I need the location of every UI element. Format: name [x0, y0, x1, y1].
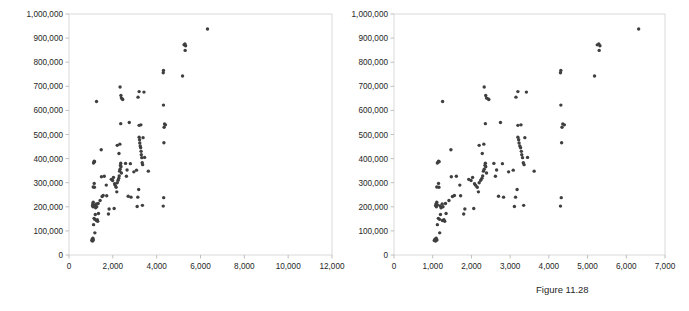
- data-point: [137, 90, 140, 93]
- plot-frame: [394, 14, 665, 255]
- y-tick-label: 1,000,000: [27, 10, 64, 19]
- data-point: [441, 100, 444, 103]
- y-tick-label: 200,000: [33, 203, 63, 212]
- data-point: [521, 156, 524, 159]
- y-tick-label: 100,000: [358, 227, 388, 236]
- x-tick-label: 12,000: [319, 262, 344, 271]
- data-point: [458, 183, 461, 186]
- data-point: [117, 174, 120, 177]
- data-point: [162, 196, 165, 199]
- data-point: [487, 98, 490, 101]
- data-point: [114, 186, 117, 189]
- figure-caption: Figure 11.28: [536, 284, 589, 295]
- scatter-chart-left: 0100,000200,000300,000400,000500,000600,…: [0, 0, 345, 280]
- data-point: [497, 195, 500, 198]
- x-tick-label: 10,000: [276, 262, 301, 271]
- data-point: [162, 103, 165, 106]
- data-point: [481, 152, 484, 155]
- data-point: [115, 190, 118, 193]
- data-point: [438, 231, 441, 234]
- data-point: [92, 238, 95, 241]
- y-tick-label: 700,000: [33, 82, 63, 91]
- data-point: [463, 207, 466, 210]
- plot-frame: [69, 14, 332, 255]
- data-point-group: [90, 27, 209, 242]
- data-point: [559, 204, 562, 207]
- data-point: [117, 152, 120, 155]
- data-point: [129, 195, 132, 198]
- data-point: [437, 182, 440, 185]
- data-point: [525, 90, 528, 93]
- y-tick-label: 900,000: [358, 34, 388, 43]
- x-tick-label: 2,000: [103, 262, 124, 271]
- data-point: [453, 194, 456, 197]
- data-point: [494, 174, 497, 177]
- data-point: [96, 202, 99, 205]
- data-point: [93, 231, 96, 234]
- y-tick-label: 500,000: [358, 131, 388, 140]
- data-point: [444, 202, 447, 205]
- data-point: [441, 205, 444, 208]
- data-point: [143, 156, 146, 159]
- data-point: [516, 90, 519, 93]
- y-tick-label: 200,000: [358, 203, 388, 212]
- y-tick-label: 0: [383, 251, 388, 260]
- data-point: [128, 121, 131, 124]
- data-point: [147, 169, 150, 172]
- data-point: [563, 123, 566, 126]
- data-point: [95, 205, 98, 208]
- data-point: [162, 69, 165, 72]
- data-point: [492, 162, 495, 165]
- data-point: [141, 163, 144, 166]
- data-point: [484, 161, 487, 164]
- data-point: [515, 188, 518, 191]
- y-tick-label: 800,000: [358, 58, 388, 67]
- data-point: [107, 207, 110, 210]
- y-tick-label: 600,000: [33, 106, 63, 115]
- data-point: [513, 205, 516, 208]
- data-point: [439, 213, 442, 216]
- data-point: [101, 194, 104, 197]
- data-point: [485, 171, 488, 174]
- data-point: [443, 220, 446, 223]
- data-point: [598, 44, 601, 47]
- x-tick-label: 4,000: [539, 262, 560, 271]
- data-point: [559, 103, 562, 106]
- data-point: [96, 220, 99, 223]
- data-point: [459, 194, 462, 197]
- data-point: [507, 170, 510, 173]
- data-point: [517, 141, 520, 144]
- data-point: [447, 199, 450, 202]
- data-point: [477, 190, 480, 193]
- data-point: [119, 165, 122, 168]
- data-point: [435, 238, 438, 241]
- data-point: [136, 95, 139, 98]
- data-point: [107, 212, 110, 215]
- data-point: [436, 223, 439, 226]
- data-point: [514, 195, 517, 198]
- scatter-plot-right-svg: 0100,000200,000300,000400,000500,000600,…: [344, 0, 689, 280]
- y-tick-label: 300,000: [33, 179, 63, 188]
- y-tick-label: 700,000: [358, 82, 388, 91]
- x-tick-label: 7,000: [655, 262, 676, 271]
- figure-page: 0100,000200,000300,000400,000500,000600,…: [0, 0, 689, 311]
- data-point: [124, 162, 127, 165]
- y-tick-label: 500,000: [33, 131, 63, 140]
- data-point: [138, 141, 141, 144]
- data-point: [437, 186, 440, 189]
- y-tick-label: 300,000: [358, 179, 388, 188]
- data-point: [481, 174, 484, 177]
- data-point: [484, 165, 487, 168]
- x-tick-label: 0: [67, 262, 72, 271]
- scatter-plot-left-svg: 0100,000200,000300,000400,000500,000600,…: [0, 0, 345, 280]
- data-point: [593, 74, 596, 77]
- data-point: [502, 195, 505, 198]
- y-tick-label: 1,000,000: [352, 10, 389, 19]
- scatter-chart-right: 0100,000200,000300,000400,000500,000600,…: [344, 0, 689, 280]
- data-point: [112, 176, 115, 179]
- data-point: [450, 175, 453, 178]
- data-point: [519, 146, 522, 149]
- data-point: [119, 122, 122, 125]
- data-point: [495, 168, 498, 171]
- data-point: [462, 212, 465, 215]
